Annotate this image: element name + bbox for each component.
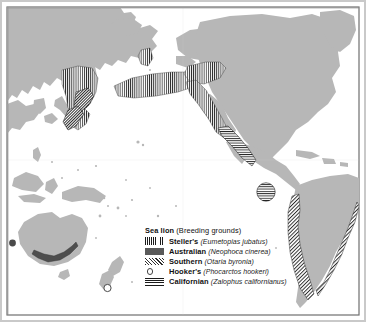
legend-label-stellers: Steller's (Eumetopias jubatus) bbox=[169, 237, 268, 246]
legend-common-southern: Southern bbox=[169, 257, 202, 266]
island-line bbox=[149, 187, 151, 189]
legend-scientific-australian: (Neophoca cinerea) bbox=[208, 248, 270, 255]
frame-shadow-left bbox=[7, 7, 9, 315]
circle-icon bbox=[147, 268, 153, 274]
frame-shadow-top bbox=[7, 7, 359, 9]
legend-item-australian[interactable]: Australian (Neophoca cinerea) bbox=[145, 246, 295, 256]
island-aleutian-dot bbox=[149, 69, 151, 71]
island-caroline bbox=[61, 177, 63, 179]
legend-item-californian[interactable]: Californian (Zalophus californianus) bbox=[145, 277, 295, 287]
legend-title-bold: Sea lion bbox=[145, 226, 174, 235]
legend-label-hookers: Hooker's (Phocarctos hookeri) bbox=[169, 267, 269, 276]
legend-scientific-southern: (Otaria byronia) bbox=[204, 258, 253, 265]
island-fiji bbox=[117, 207, 120, 210]
island-kiribati bbox=[125, 179, 127, 181]
legend-common-hookers: Hooker's bbox=[169, 267, 201, 276]
island-samoa bbox=[131, 199, 133, 201]
island-marquesas bbox=[175, 205, 177, 207]
island-chatham bbox=[131, 281, 133, 283]
legend-label-southern: Southern (Otaria byronia) bbox=[169, 257, 254, 266]
legend-label-australian: Australian (Neophoca cinerea) bbox=[169, 247, 271, 256]
island-hawaii bbox=[136, 140, 139, 143]
legend-title: Sea lion (Breeding grounds) bbox=[145, 226, 295, 236]
range-australian-west-dot bbox=[9, 240, 16, 247]
legend-common-californian: Californian bbox=[169, 277, 209, 286]
legend-scientific-hookers: (Phocarctos hookeri) bbox=[203, 268, 269, 275]
swatch-open-circle bbox=[145, 268, 164, 276]
island-solomon bbox=[103, 197, 106, 200]
swatch-solid-fill bbox=[145, 248, 164, 256]
legend-common-stellers: Steller's bbox=[169, 237, 198, 246]
island-hawaii-2 bbox=[142, 144, 144, 146]
island-micronesia bbox=[77, 169, 79, 171]
legend-item-southern[interactable]: Southern (Otaria byronia) bbox=[145, 256, 295, 266]
legend-title-rest: (Breeding grounds) bbox=[174, 226, 241, 235]
legend-item-hookers[interactable]: Hooker's (Phocarctos hookeri) bbox=[145, 267, 295, 277]
swatch-horizontal-lines bbox=[145, 278, 164, 286]
island-tonga bbox=[125, 215, 127, 217]
island-newcaledonia bbox=[99, 215, 102, 218]
map-legend: Sea lion (Breeding grounds) Steller's (E… bbox=[145, 226, 295, 287]
island-norfolk bbox=[95, 237, 97, 239]
swatch-vertical-lines bbox=[145, 237, 164, 245]
legend-item-stellers[interactable]: Steller's (Eumetopias jubatus) bbox=[145, 236, 295, 246]
island-vanuatu bbox=[107, 205, 109, 207]
sea-lion-distribution-map: Sea lion (Breeding grounds) Steller's (E… bbox=[0, 0, 366, 322]
legend-scientific-stellers: (Eumetopias jubatus) bbox=[200, 238, 267, 245]
range-californian-galapagos bbox=[257, 183, 275, 201]
swatch-diagonal-hatch bbox=[145, 258, 164, 266]
island-guam bbox=[51, 161, 53, 163]
legend-label-californian: Californian (Zalophus californianus) bbox=[169, 277, 287, 286]
range-hookers-auckland-islands bbox=[104, 284, 111, 291]
island-tahiti bbox=[157, 215, 159, 217]
island-marshall bbox=[95, 165, 97, 167]
legend-scientific-californian: (Zalophus californianus) bbox=[211, 278, 287, 285]
legend-common-australian: Australian bbox=[169, 247, 206, 256]
